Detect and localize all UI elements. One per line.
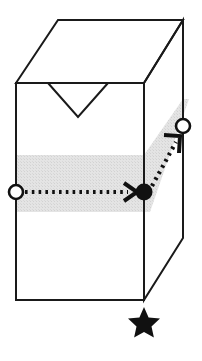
box-top-face	[16, 20, 183, 83]
star-marker-icon	[128, 307, 160, 338]
waypoint-node-marker	[136, 184, 153, 201]
figure-caption	[0, 348, 202, 361]
start-node-marker	[9, 185, 23, 199]
box-diagram-svg	[0, 0, 202, 361]
end-node-marker	[176, 119, 190, 133]
v-notch-icon	[48, 83, 108, 117]
figure-container	[0, 0, 202, 361]
